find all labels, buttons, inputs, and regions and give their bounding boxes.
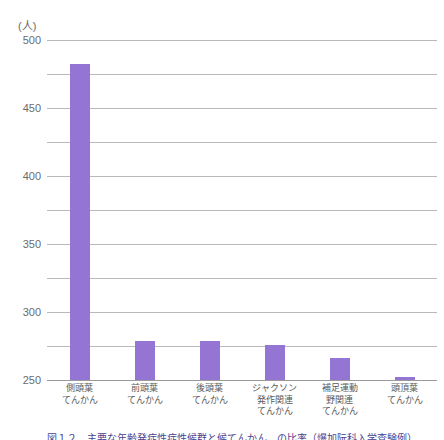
bar[interactable]	[395, 377, 415, 380]
bar[interactable]	[70, 64, 90, 380]
y-axis-tick-label: 350	[23, 238, 41, 250]
bar-slot	[309, 40, 371, 380]
x-axis-labels-group: 側頭葉 てんかん前頭葉 てんかん後頭葉 てんかんジャクソン 発作関連 てんかん補…	[47, 383, 437, 429]
x-axis-tick-label: ジャクソン 発作関連 てんかん	[244, 383, 306, 418]
x-axis-tick-label: 頭頂葉 てんかん	[374, 383, 436, 406]
x-axis-tick-label: 補足運動 野関連 てんかん	[309, 383, 371, 418]
bar-slot	[179, 40, 241, 380]
y-axis-tick-label: 500	[23, 34, 41, 46]
bar-chart-figure: (人) 050100150200250300350400450500 側頭葉 て…	[0, 0, 444, 440]
figure-caption: 図１２ 主要な年齢発症性症性候群と候てんかん の比率（爆加阮科入学査験例）	[47, 432, 444, 440]
bar[interactable]	[265, 345, 285, 380]
x-axis-tick-label: 後頭葉 てんかん	[179, 383, 241, 406]
bar[interactable]	[135, 341, 155, 380]
bar-slot	[244, 40, 306, 380]
x-axis-tick-label: 前頭葉 てんかん	[114, 383, 176, 406]
bar[interactable]	[330, 358, 350, 380]
y-axis-tick-label: 400	[23, 170, 41, 182]
bar-slot	[114, 40, 176, 380]
y-axis-tick-label: 450	[23, 102, 41, 114]
y-axis-unit-label: (人)	[18, 17, 36, 33]
bars-group	[47, 40, 437, 380]
x-axis-tick-label: 側頭葉 てんかん	[49, 383, 111, 406]
bar[interactable]	[200, 341, 220, 380]
bar-slot	[49, 40, 111, 380]
gridline: 0	[47, 380, 437, 381]
y-axis-tick-label: 300	[23, 306, 41, 318]
bar-slot	[374, 40, 436, 380]
plot-area: 050100150200250300350400450500	[47, 40, 437, 380]
y-axis-tick-label: 250	[23, 374, 41, 386]
